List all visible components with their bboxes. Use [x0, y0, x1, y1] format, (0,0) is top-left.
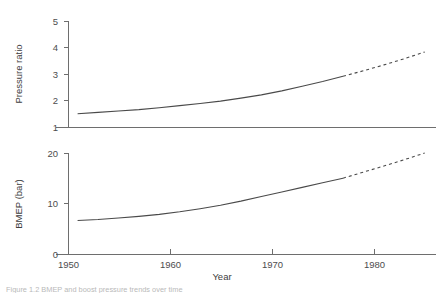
top-ytick-label-2: 2 [53, 95, 58, 106]
xtick-label-1960: 1960 [160, 259, 181, 270]
bottom-curve-solid [78, 178, 343, 220]
two-panel-line-chart: 5 4 3 2 1 Pressure ratio [0, 0, 440, 293]
x-axis-title: Year [212, 271, 231, 282]
xtick-label-1950: 1950 [58, 259, 79, 270]
figure-caption-text: Figure 1.2 BMEP and boost pressure trend… [6, 285, 434, 293]
top-ytick-label-1: 1 [53, 122, 58, 133]
bottom-ytick-label-10: 10 [47, 198, 58, 209]
top-ytick-label-5: 5 [53, 16, 58, 27]
figure-caption: Figure 1.2 BMEP and boost pressure trend… [6, 285, 434, 293]
panel-pressure-ratio: 5 4 3 2 1 Pressure ratio [13, 16, 436, 133]
top-ytick-label-3: 3 [53, 69, 58, 80]
top-y-axis-title: Pressure ratio [13, 44, 24, 103]
bottom-curve-dashed [343, 153, 425, 178]
figure-container: 5 4 3 2 1 Pressure ratio [0, 0, 440, 293]
bottom-y-axis-title: BMEP (bar) [13, 179, 24, 228]
xtick-label-1980: 1980 [364, 259, 385, 270]
top-curve-dashed [343, 52, 425, 76]
xtick-label-1970: 1970 [262, 259, 283, 270]
top-ytick-label-4: 4 [53, 42, 58, 53]
panel-bmep: 20 10 0 1950 1960 1970 1980 BMEP (bar) Y… [13, 148, 436, 282]
top-curve-solid [78, 76, 343, 114]
bottom-ytick-label-20: 20 [47, 148, 58, 159]
